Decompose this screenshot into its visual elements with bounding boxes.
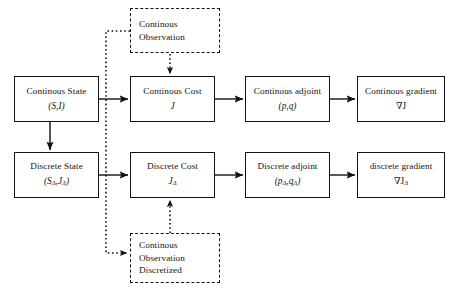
node-continuous-state-label: Continous State — [27, 85, 87, 97]
flow-diagram-canvas: Continous Observation Continous State (S… — [0, 0, 459, 289]
node-continuous-observation-discretized-line1: Continous — [139, 239, 178, 252]
node-continuous-observation-discretized[interactable]: Continous Observation Discretized — [130, 233, 220, 283]
node-discrete-gradient[interactable]: discrete gradient ∇JΔ — [357, 152, 445, 198]
node-discrete-cost[interactable]: Discrete Cost JΔ — [130, 152, 215, 198]
edge-observation-to-discretized-observation — [106, 31, 130, 253]
node-discrete-cost-symbol: JΔ — [168, 175, 176, 189]
node-continuous-state[interactable]: Continous State (S,I) — [14, 76, 99, 122]
node-continuous-observation-line2: Observation — [139, 31, 185, 44]
connector-layer — [0, 0, 459, 289]
node-continuous-gradient-symbol: ∇J — [396, 100, 406, 113]
node-continuous-adjoint[interactable]: Continous adjoint (p,q) — [245, 76, 330, 122]
node-discrete-adjoint[interactable]: Discrete adjoint (pΔ,qΔ) — [245, 152, 330, 198]
node-discrete-state-symbol: (SΔ,JΔ) — [44, 175, 69, 189]
node-continuous-state-symbol: (S,I) — [48, 100, 64, 113]
node-discrete-cost-label: Discrete Cost — [147, 160, 198, 172]
node-continuous-cost[interactable]: Continous Cost J — [130, 76, 215, 122]
node-continuous-gradient-label: Continous gradient — [365, 85, 437, 97]
node-discrete-state-label: Discrete State — [30, 160, 83, 172]
node-continuous-observation-line1: Continous — [139, 18, 178, 31]
node-continuous-adjoint-label: Continous adjoint — [254, 85, 321, 97]
node-continuous-observation-discretized-line3: Discretized — [139, 264, 182, 277]
node-discrete-adjoint-label: Discrete adjoint — [257, 160, 317, 172]
node-continuous-observation-discretized-line2: Observation — [139, 252, 185, 265]
node-discrete-gradient-label: discrete gradient — [370, 160, 433, 172]
node-continuous-adjoint-symbol: (p,q) — [279, 100, 297, 113]
node-continuous-cost-label: Continous Cost — [143, 85, 201, 97]
node-continuous-cost-symbol: J — [170, 100, 174, 113]
node-discrete-adjoint-symbol: (pΔ,qΔ) — [275, 175, 301, 189]
node-discrete-state[interactable]: Discrete State (SΔ,JΔ) — [14, 152, 99, 198]
node-continuous-gradient[interactable]: Continous gradient ∇J — [357, 76, 445, 122]
node-discrete-gradient-symbol: ∇JΔ — [394, 175, 408, 189]
node-continuous-observation[interactable]: Continous Observation — [130, 8, 220, 53]
